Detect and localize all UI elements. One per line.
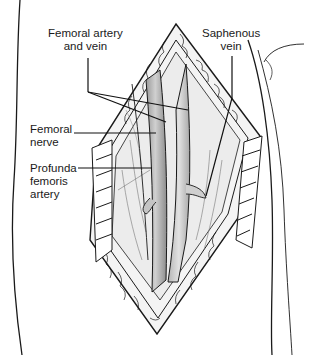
label-profunda-femoris-artery: Profunda femoris artery [30, 162, 77, 201]
incision [90, 24, 260, 334]
label-saphenous-vein: Saphenous vein [202, 27, 260, 53]
anatomical-illustration: Femoral artery and vein Saphenous vein F… [0, 0, 315, 355]
label-femoral-nerve: Femoral nerve [30, 123, 72, 149]
retractor-left [92, 140, 112, 262]
label-femoral-artery-and-vein: Femoral artery and vein [48, 27, 123, 53]
